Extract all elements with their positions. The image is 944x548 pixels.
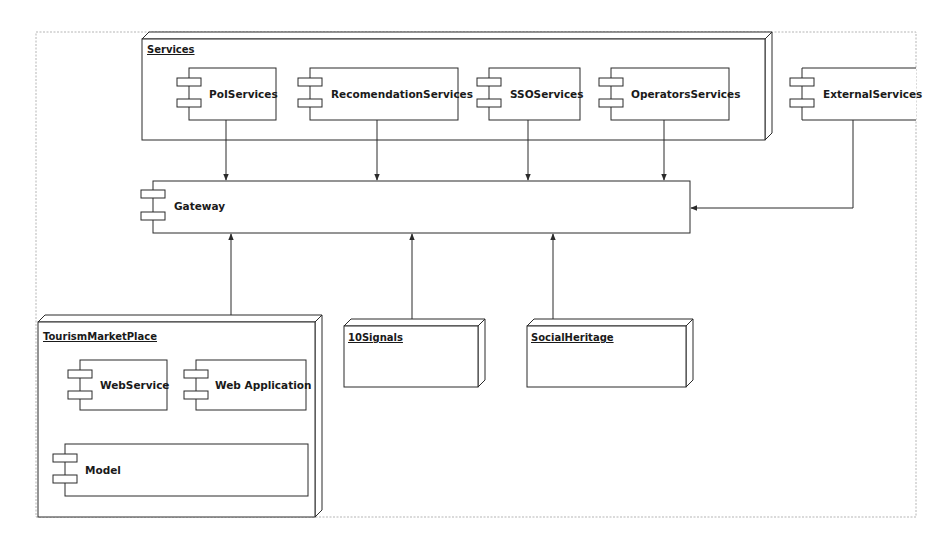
recomendation-services-label: RecomendationServices xyxy=(331,88,473,100)
external-services-label: ExternalServices xyxy=(823,88,922,100)
web-service-component[interactable]: WebService xyxy=(68,360,170,410)
sso-services-label: SSOServices xyxy=(510,88,583,100)
diagram-canvas: Services PoIServices RecomendationServic… xyxy=(0,0,944,548)
model-component[interactable]: Model xyxy=(53,444,308,496)
operators-services-component[interactable]: OperatorsServices xyxy=(599,68,740,120)
gateway-label: Gateway xyxy=(174,200,225,212)
web-service-label: WebService xyxy=(100,379,170,391)
poi-services-label: PoIServices xyxy=(209,88,278,100)
web-application-component[interactable]: Web Application xyxy=(184,360,311,410)
sso-services-component[interactable]: SSOServices xyxy=(477,68,583,120)
gateway-component[interactable]: Gateway xyxy=(141,181,690,233)
social-heritage-title: SocialHeritage xyxy=(531,332,614,343)
tourism-market-place-title: TourismMarketPlace xyxy=(43,331,157,342)
operators-services-label: OperatorsServices xyxy=(631,88,740,100)
poi-services-component[interactable]: PoIServices xyxy=(177,68,278,120)
recomendation-services-component[interactable]: RecomendationServices xyxy=(298,68,473,120)
model-label: Model xyxy=(85,464,121,476)
ten-signals-title: 10Signals xyxy=(348,332,403,343)
social-heritage-node[interactable]: SocialHeritage xyxy=(527,319,693,387)
external-services-component[interactable]: ExternalServices xyxy=(790,68,922,120)
web-application-label: Web Application xyxy=(215,379,311,391)
ten-signals-node[interactable]: 10Signals xyxy=(344,319,485,387)
services-node-title: Services xyxy=(147,44,195,55)
